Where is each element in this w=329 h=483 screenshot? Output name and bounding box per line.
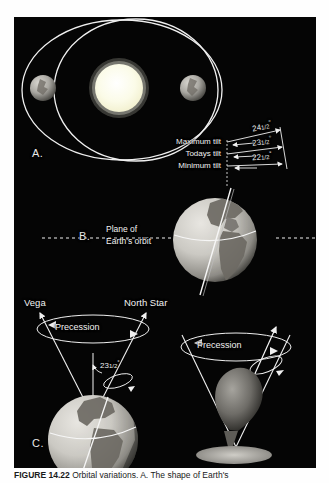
illustration-panel: A. Maximum tilt Todays tilt Minimum tilt…: [14, 17, 316, 468]
tilt-angle-unit-c: °: [117, 359, 119, 365]
figure-root: A. Maximum tilt Todays tilt Minimum tilt…: [0, 0, 329, 483]
orbital-plane-label-line1: Plane of: [106, 225, 137, 235]
tilt-label-minimum: Minimum tilt: [111, 162, 221, 170]
spinning-top-body: [215, 368, 263, 431]
panel-a-letter: A.: [32, 148, 43, 159]
tilt-angle-frac-c: 1/2: [109, 363, 117, 369]
precession-arrow-right-b: [270, 347, 278, 355]
tilt-label-today: Todays tilt: [111, 150, 221, 158]
tilt-value-today-unit: °: [269, 135, 272, 141]
star-label-north-star: North Star: [124, 298, 167, 308]
spinning-top-base-disc: [196, 446, 272, 464]
figure-caption-text: Orbital variations. A. The shape of Eart…: [72, 470, 228, 480]
top-rotation-arrow: [276, 370, 284, 376]
tilt-value-minimum-unit: °: [269, 150, 272, 156]
panel-b-letter: B.: [79, 231, 90, 242]
figure-caption: FIGURE 14.22 Orbital variations. A. The …: [14, 470, 319, 483]
precession-label-right: Precession: [197, 341, 242, 350]
panel-c-letter: C.: [32, 438, 44, 449]
tilt-line-minimum: [227, 164, 282, 166]
figure-caption-label: FIGURE 14.22: [14, 470, 70, 480]
tilt-bracket-edge: [280, 127, 287, 169]
tilt-value-minimum: 221/2°: [252, 150, 272, 162]
star-label-vega: Vega: [24, 298, 46, 308]
tilt-value-maximum-unit: °: [268, 119, 272, 125]
diagram-artwork: [14, 17, 316, 468]
orbital-plane-label-line2: Earth's orbit: [106, 237, 151, 247]
sun: [95, 64, 143, 112]
tilt-label-maximum: Maximum tilt: [111, 138, 221, 146]
panel-c-left-group: [37, 313, 149, 468]
precession-label-left: Precession: [55, 323, 100, 332]
tilt-angle-label-c: 231/2°: [100, 359, 120, 370]
tilt-angle-deg-c: 23: [100, 361, 109, 370]
tilt-bracket-group: [227, 127, 287, 169]
earth-rotation-arrow-c: [128, 386, 135, 392]
